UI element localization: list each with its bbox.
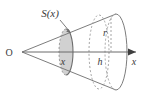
cone-diagram-canvas: S(x) O r h x x [0,0,146,99]
label-origin: O [5,47,12,58]
cone-diagram-figure: S(x) O r h x x [0,0,146,99]
x-axis-arrowhead [128,49,136,56]
label-distance-x: x [60,56,66,67]
label-radius: r [103,27,107,38]
label-area-function: S(x) [41,7,59,20]
label-height: h [98,56,103,67]
label-x-axis: x [131,56,137,67]
